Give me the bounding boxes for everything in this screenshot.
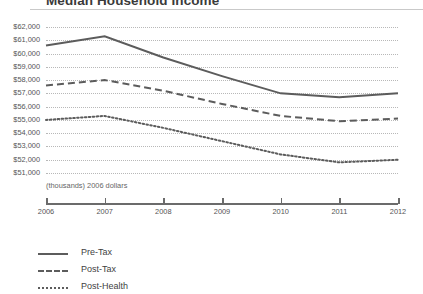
x-axis-tick bbox=[222, 198, 224, 204]
series-group bbox=[46, 27, 398, 173]
series-line bbox=[46, 116, 398, 162]
legend-item-label: Post-Health bbox=[81, 281, 128, 291]
x-axis-tick bbox=[281, 198, 283, 204]
x-axis-tick-label: 2011 bbox=[319, 207, 359, 216]
y-axis-tick-label: $55,000 bbox=[0, 116, 40, 123]
series-line bbox=[46, 36, 398, 97]
chart-container: Median Household Income $62,000$61,000$6… bbox=[0, 0, 423, 294]
x-axis-tick bbox=[105, 198, 107, 204]
y-axis-tick-label: $58,000 bbox=[0, 76, 40, 83]
x-axis-tick-label: 2006 bbox=[26, 207, 66, 216]
y-axis-tick-label: $56,000 bbox=[0, 103, 40, 110]
x-axis-tick bbox=[163, 198, 165, 204]
y-axis-tick-label: $62,000 bbox=[0, 23, 40, 30]
x-axis-tick-label: 2010 bbox=[261, 207, 301, 216]
legend-swatch-icon bbox=[38, 287, 68, 289]
series-line bbox=[46, 80, 398, 121]
x-axis-tick-label: 2007 bbox=[85, 207, 125, 216]
y-axis-tick-label: $54,000 bbox=[0, 129, 40, 136]
gridline bbox=[46, 173, 398, 174]
y-axis-tick-label: $61,000 bbox=[0, 36, 40, 43]
units-note: (thousands) 2006 dollars bbox=[46, 181, 127, 190]
x-axis-tick bbox=[46, 198, 48, 204]
x-axis-tick-label: 2012 bbox=[378, 207, 418, 216]
legend-item-label: Pre-Tax bbox=[81, 247, 112, 257]
legend-swatch-icon bbox=[38, 270, 68, 272]
title-divider bbox=[30, 9, 423, 10]
legend-item-label: Post-Tax bbox=[81, 264, 116, 274]
legend-swatch-icon bbox=[38, 253, 68, 255]
y-axis-tick-label: $59,000 bbox=[0, 63, 40, 70]
x-axis-tick-label: 2009 bbox=[202, 207, 242, 216]
y-axis-tick-label: $51,000 bbox=[0, 169, 40, 176]
y-axis-tick-label: $52,000 bbox=[0, 156, 40, 163]
plot-area bbox=[46, 27, 398, 173]
y-axis-tick-label: $60,000 bbox=[0, 50, 40, 57]
x-axis-tick bbox=[339, 198, 341, 204]
chart-title: Median Household Income bbox=[46, 0, 219, 8]
y-axis-tick-label: $57,000 bbox=[0, 89, 40, 96]
y-axis-tick-label: $53,000 bbox=[0, 142, 40, 149]
x-axis-tick bbox=[398, 198, 400, 204]
x-axis-tick-label: 2008 bbox=[143, 207, 183, 216]
